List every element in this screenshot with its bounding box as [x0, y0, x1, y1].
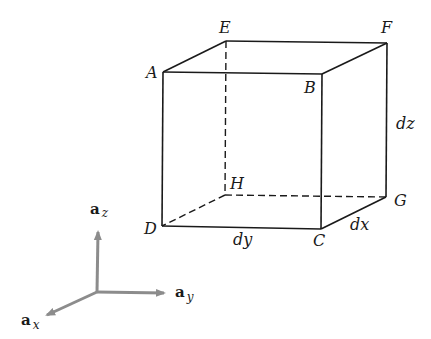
axis-z-arrow — [97, 232, 98, 292]
cube-diagram: A E F B H G D C dz dx dy az ay ax — [0, 0, 431, 339]
vertex-label-B: B — [303, 78, 316, 97]
edge-HD — [162, 195, 225, 226]
visible-edges — [162, 41, 387, 229]
vertex-label-G: G — [394, 191, 407, 210]
vertex-label-H: H — [229, 174, 245, 193]
vertex-label-E: E — [218, 18, 231, 37]
axis-x-arrow — [47, 292, 97, 315]
axis-y-arrow — [97, 292, 164, 293]
edge-FG — [386, 43, 387, 197]
dimension-dy: dy — [233, 230, 253, 249]
axis-label-y: ay — [175, 283, 194, 304]
edge-HG — [225, 195, 386, 197]
vertex-label-C: C — [313, 231, 325, 250]
edge-FB — [322, 43, 387, 74]
edge-AE — [163, 41, 226, 72]
edge-CD — [162, 226, 321, 229]
axis-label-z: az — [90, 200, 109, 220]
edge-BC — [321, 74, 322, 229]
vertex-label-D: D — [143, 219, 157, 238]
vertex-label-F: F — [380, 18, 393, 37]
edge-EH — [225, 41, 226, 195]
edge-AB — [163, 72, 322, 74]
axis-label-x: ax — [21, 311, 40, 332]
diagram-canvas: A E F B H G D C dz dx dy az ay ax — [0, 0, 431, 339]
hidden-edges — [162, 41, 386, 226]
coordinate-axes — [47, 232, 164, 315]
dimension-dx: dx — [350, 215, 369, 234]
dimension-dz: dz — [396, 114, 415, 133]
vertex-label-A: A — [144, 63, 158, 82]
edge-DA — [162, 72, 163, 226]
edge-EF — [226, 41, 387, 43]
